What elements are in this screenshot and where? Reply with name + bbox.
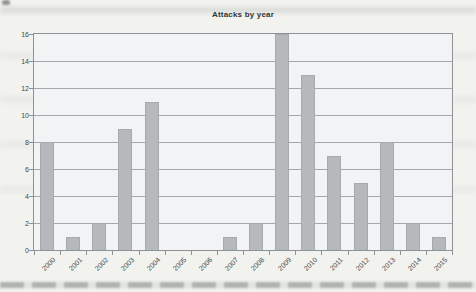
bar-2010: [301, 75, 315, 251]
x-tick-15: [426, 251, 427, 255]
bar-2001: [66, 237, 80, 251]
x-tick-label-2011: 2011: [329, 256, 345, 272]
y-tick-2: [29, 223, 34, 224]
scan-artifact-top-left: [2, 0, 10, 5]
x-tick-13: [374, 251, 375, 255]
x-tick-5: [165, 251, 166, 255]
x-tick-label-2014: 2014: [407, 256, 424, 273]
y-tick-label-6: 6: [3, 166, 29, 174]
x-tick-label-2013: 2013: [381, 256, 398, 273]
bar-2012: [354, 183, 368, 251]
plot-area: 0246810121416200020012002200320042005200…: [33, 33, 453, 251]
bar-2002: [92, 223, 106, 250]
y-tick-4: [29, 196, 34, 197]
x-tick-3: [112, 251, 113, 255]
x-tick-label-2010: 2010: [302, 256, 319, 273]
x-tick-6: [191, 251, 192, 255]
x-tick-label-2008: 2008: [250, 256, 267, 273]
y-tick-8: [29, 142, 34, 143]
x-tick-8: [243, 251, 244, 255]
x-tick-label-2002: 2002: [93, 256, 110, 273]
y-tick-12: [29, 88, 34, 89]
x-tick-7: [217, 251, 218, 255]
x-tick-16: [452, 251, 453, 255]
y-tick-label-2: 2: [3, 220, 29, 228]
bar-2014: [406, 223, 420, 250]
x-tick-label-2004: 2004: [146, 256, 163, 273]
x-tick-10: [295, 251, 296, 255]
x-tick-label-2005: 2005: [172, 256, 189, 273]
y-tick-6: [29, 169, 34, 170]
y-tick-label-8: 8: [3, 139, 29, 147]
y-tick-label-10: 10: [3, 112, 29, 120]
y-tick-10: [29, 115, 34, 116]
x-tick-label-2012: 2012: [355, 256, 372, 273]
x-tick-label-2000: 2000: [41, 256, 58, 273]
bar-2000: [40, 142, 54, 250]
bar-2008: [249, 223, 263, 250]
x-tick-2: [86, 251, 87, 255]
bar-2011: [327, 156, 341, 251]
x-tick-label-2009: 2009: [276, 256, 293, 273]
x-tick-label-2007: 2007: [224, 256, 241, 273]
x-tick-14: [400, 251, 401, 255]
gridline-12: [34, 88, 452, 89]
y-tick-label-16: 16: [3, 31, 29, 39]
bar-2007: [223, 237, 237, 251]
bar-2013: [380, 142, 394, 250]
y-tick-label-14: 14: [3, 58, 29, 66]
gridline-10: [34, 115, 452, 116]
y-tick-label-12: 12: [3, 85, 29, 93]
x-tick-0: [34, 251, 35, 255]
x-tick-4: [139, 251, 140, 255]
y-tick-14: [29, 61, 34, 62]
bar-2003: [118, 129, 132, 251]
scan-ghost-text-band-bottom: [0, 282, 476, 288]
bar-2004: [145, 102, 159, 251]
gridline-14: [34, 61, 452, 62]
y-tick-16: [29, 34, 34, 35]
chart-title: Attacks by year: [33, 10, 453, 19]
x-tick-label-2015: 2015: [433, 256, 450, 273]
x-tick-11: [321, 251, 322, 255]
x-tick-1: [60, 251, 61, 255]
x-tick-label-2001: 2001: [67, 256, 84, 273]
y-tick-label-0: 0: [3, 247, 29, 255]
x-tick-label-2006: 2006: [198, 256, 215, 273]
bar-2009: [275, 34, 289, 250]
x-tick-label-2003: 2003: [119, 256, 136, 273]
x-tick-12: [348, 251, 349, 255]
bar-2015: [432, 237, 446, 251]
y-tick-label-4: 4: [3, 193, 29, 201]
x-tick-9: [269, 251, 270, 255]
scanned-page: Attacks by year 024681012141620002001200…: [0, 0, 476, 292]
